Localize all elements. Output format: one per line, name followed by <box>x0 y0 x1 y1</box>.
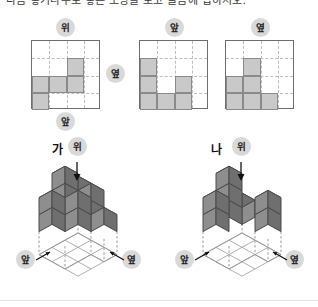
grid-line-vertical <box>84 41 85 108</box>
grid-filled-cell <box>32 76 49 93</box>
figure-ga: 가 위 앞 옆 <box>0 132 159 302</box>
question-text: 다음 쌓기나무로 쌓은 모양을 보고 물음에 답하시오. <box>6 0 246 7</box>
grid-filled-cell <box>157 93 174 110</box>
side-direction-arrow <box>110 252 124 260</box>
grid-cells <box>140 41 207 108</box>
grid-filled-cell <box>261 93 278 110</box>
grid-filled-cell <box>49 76 66 93</box>
base-footprint-outline <box>203 233 281 269</box>
grid-filled-cell <box>140 76 157 93</box>
grid-filled-cell <box>67 76 84 93</box>
front-direction-arrow <box>195 252 209 260</box>
grid-filled-cell <box>226 93 243 110</box>
label-side-of-grid-1: 옆 <box>106 64 125 83</box>
top-view-grid <box>31 40 100 109</box>
front-direction-arrow <box>36 252 50 260</box>
grid-filled-cell <box>175 93 192 110</box>
grid-line-vertical <box>192 41 193 108</box>
grid-filled-cell <box>243 93 260 110</box>
grid-filled-cell <box>243 76 260 93</box>
grid-cells <box>32 41 99 108</box>
grid-line-vertical <box>278 41 279 108</box>
grid-cells <box>226 41 293 108</box>
front-view-grid <box>139 40 208 109</box>
figure-na: 나 위 앞 옆 <box>159 132 318 302</box>
bottom-divider <box>0 300 318 301</box>
label-side-view-3: 옆 <box>251 18 270 37</box>
label-top-view-1: 위 <box>56 18 75 37</box>
grid-filled-cell <box>243 58 260 75</box>
question-strip: 다음 쌓기나무로 쌓은 모양을 보고 물음에 답하시오. <box>0 0 318 7</box>
side-direction-arrow <box>273 252 287 260</box>
cube-face-right <box>104 207 117 231</box>
grid-line-horizontal <box>32 58 99 59</box>
grid-filled-cell <box>175 76 192 93</box>
figure-na-isometric-drawing <box>159 132 318 302</box>
grid-filled-cell <box>32 93 49 110</box>
grid-filled-cell <box>140 58 157 75</box>
grid-filled-cell <box>140 93 157 110</box>
label-front-view-2: 앞 <box>165 18 184 37</box>
grid-filled-cell <box>67 58 84 75</box>
grid-line-vertical <box>49 41 50 108</box>
side-view-grid <box>225 40 294 109</box>
label-front-of-grid-1: 앞 <box>56 112 75 131</box>
figure-ga-isometric-drawing <box>0 132 159 302</box>
grid-filled-cell <box>226 76 243 93</box>
base-footprint-outline <box>39 233 117 269</box>
